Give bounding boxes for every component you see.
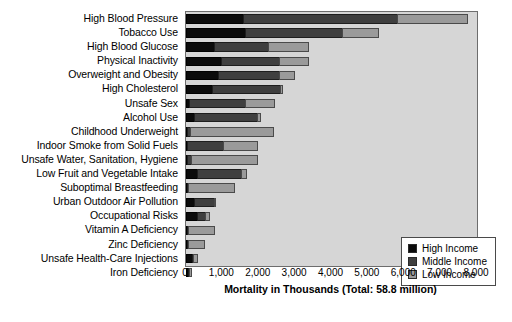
category-label: Physical Inactivity — [0, 53, 182, 67]
bar-segment — [188, 183, 235, 193]
stacked-bar — [186, 127, 273, 137]
x-tick-label: 2,000 — [245, 267, 270, 278]
category-label: Suboptimal Breastfeeding — [0, 180, 182, 194]
bar-segment — [191, 155, 258, 165]
category-label: Iron Deficiency — [0, 265, 182, 279]
stacked-bar — [186, 42, 308, 52]
x-tick-label: 3,000 — [282, 267, 307, 278]
x-tick-label: 6,000 — [391, 267, 416, 278]
category-label: Unsafe Health-Care Injections — [0, 251, 182, 265]
stacked-bar — [186, 212, 209, 222]
stacked-bar — [186, 28, 378, 38]
x-tick-label: 1,000 — [209, 267, 234, 278]
stacked-bar — [186, 240, 204, 250]
stacked-bar — [186, 254, 197, 264]
x-tick-label: 5,000 — [354, 267, 379, 278]
bar-segment — [243, 14, 398, 24]
x-tick-label: 8,000 — [463, 267, 488, 278]
bar-segment — [279, 71, 295, 81]
stacked-bar — [186, 198, 215, 208]
plot-area — [185, 11, 478, 267]
x-axis-title: Mortality in Thousands (Total: 58.8 mill… — [185, 283, 476, 295]
bar-segment — [268, 42, 310, 52]
bar-row — [186, 26, 477, 40]
x-tick-label: 0 — [182, 267, 188, 278]
bar-segment — [280, 85, 282, 95]
stacked-bar — [186, 99, 274, 109]
x-tick-label: 4,000 — [318, 267, 343, 278]
bar-segment — [197, 169, 242, 179]
category-label: High Blood Glucose — [0, 39, 182, 53]
legend-swatch-icon — [408, 257, 417, 266]
bar-segment — [186, 57, 222, 67]
bar-row — [186, 82, 477, 96]
category-label: Low Fruit and Vegetable Intake — [0, 166, 182, 180]
category-label: Childhood Underweight — [0, 124, 182, 138]
stacked-bar — [186, 57, 308, 67]
category-label: Unsafe Water, Sanitation, Hygiene — [0, 152, 182, 166]
bar-segment — [194, 113, 258, 123]
stacked-bar — [186, 113, 260, 123]
category-label: Urban Outdoor Air Pollution — [0, 194, 182, 208]
stacked-bar — [186, 85, 282, 95]
stacked-bar — [186, 183, 234, 193]
bar-row — [186, 209, 477, 223]
bar-row — [186, 97, 477, 111]
bar-segment — [214, 42, 269, 52]
bar-segment — [221, 57, 279, 67]
mortality-risk-factor-chart: High Blood PressureTobacco UseHigh Blood… — [0, 0, 512, 322]
bar-row — [186, 125, 477, 139]
bar-row — [186, 167, 477, 181]
bar-row — [186, 54, 477, 68]
bar-row — [186, 153, 477, 167]
bar-segment — [186, 85, 213, 95]
bar-segment — [189, 99, 245, 109]
bar-segment — [187, 141, 223, 151]
bar-row — [186, 139, 477, 153]
category-label: Overweight and Obesity — [0, 67, 182, 81]
category-label: Unsafe Sex — [0, 96, 182, 110]
bar-row — [186, 223, 477, 237]
bar-segment — [223, 141, 258, 151]
bar-segment — [279, 57, 310, 67]
bar-row — [186, 12, 477, 26]
category-label: Occupational Risks — [0, 208, 182, 222]
bar-segment — [245, 99, 276, 109]
legend-label: High Income — [422, 242, 478, 255]
bar-segment — [188, 226, 215, 236]
category-label: High Blood Pressure — [0, 11, 182, 25]
x-tick-label: 7,000 — [427, 267, 452, 278]
bar-row — [186, 111, 477, 125]
category-axis: High Blood PressureTobacco UseHigh Blood… — [0, 11, 182, 279]
bar-segment — [218, 71, 280, 81]
stacked-bar — [186, 141, 257, 151]
stacked-bar — [186, 169, 246, 179]
stacked-bar — [186, 71, 294, 81]
stacked-bar — [186, 155, 257, 165]
category-label: Vitamin A Deficiency — [0, 222, 182, 236]
bar-segment — [397, 14, 468, 24]
bar-segment — [194, 198, 215, 208]
bar-segment — [205, 212, 210, 222]
bar-segment — [190, 127, 273, 137]
legend-item[interactable]: High Income — [408, 242, 487, 255]
bar-segment — [245, 28, 343, 38]
stacked-bar — [186, 226, 214, 236]
bar-segment — [186, 28, 246, 38]
bar-segment — [188, 240, 205, 250]
bar-segment — [186, 14, 244, 24]
bar-row — [186, 181, 477, 195]
category-label: Indoor Smoke from Solid Fuels — [0, 138, 182, 152]
category-label: Alcohol Use — [0, 110, 182, 124]
bar-segment — [186, 71, 219, 81]
bar-segment — [241, 169, 247, 179]
x-axis: 01,0002,0003,0004,0005,0006,0007,0008,00… — [185, 267, 476, 281]
category-label: Tobacco Use — [0, 25, 182, 39]
stacked-bar — [186, 14, 467, 24]
bar-row — [186, 40, 477, 54]
bar-row — [186, 195, 477, 209]
bar-segment — [214, 198, 216, 208]
bar-segment — [193, 254, 198, 264]
legend-swatch-icon — [408, 244, 417, 253]
bar-segment — [257, 113, 261, 123]
